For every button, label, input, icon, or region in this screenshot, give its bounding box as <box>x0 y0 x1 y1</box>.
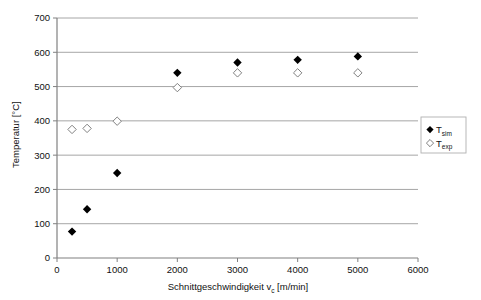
y-tick-label: 600 <box>34 47 50 58</box>
x-axis-ticks: 0100020003000400050006000 <box>54 258 428 275</box>
y-tick-label: 100 <box>34 218 50 229</box>
x-tick-label: 3000 <box>227 264 248 275</box>
x-tick-label: 6000 <box>407 264 428 275</box>
x-tick-label: 1000 <box>107 264 128 275</box>
y-axis-ticks: 0100200300400500600700 <box>34 12 57 263</box>
y-tick-label: 200 <box>34 184 50 195</box>
chart-legend: Tsim Texp <box>421 117 466 153</box>
x-axis-title-unit: [m/min] <box>274 281 308 292</box>
y-tick-label: 400 <box>34 115 50 126</box>
chart-container: 0100200300400500600700 01000200030004000… <box>0 0 481 300</box>
y-tick-label: 700 <box>34 12 50 23</box>
x-tick-label: 0 <box>54 264 59 275</box>
y-tick-label: 500 <box>34 81 50 92</box>
y-tick-label: 300 <box>34 150 50 161</box>
y-tick-label: 0 <box>45 252 50 263</box>
x-tick-label: 4000 <box>287 264 308 275</box>
temperature-vs-cutting-speed-chart: 0100200300400500600700 01000200030004000… <box>0 0 481 300</box>
x-axis-title-main: Schnittgeschwindigkeit v <box>168 281 272 292</box>
plot-background <box>57 18 418 258</box>
legend-t-sim-sub: sim <box>442 130 452 137</box>
legend-t-exp-sub: exp <box>442 143 453 151</box>
x-tick-label: 5000 <box>347 264 368 275</box>
x-tick-label: 2000 <box>167 264 188 275</box>
x-axis-title: Schnittgeschwindigkeit vc [m/min] <box>168 281 309 294</box>
y-axis-title: Temperatur [°C] <box>10 101 21 168</box>
